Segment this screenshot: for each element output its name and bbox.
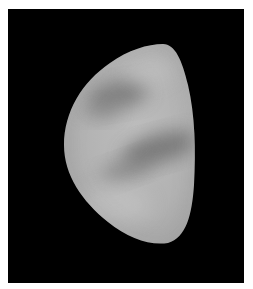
planet-disk — [64, 44, 200, 244]
planet-image — [0, 0, 253, 289]
